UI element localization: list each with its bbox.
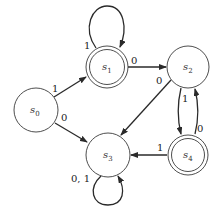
edge-s2-s3 <box>121 80 171 135</box>
state-s4: s4 <box>168 135 208 175</box>
edge-label-s1-self: 1 <box>84 40 90 51</box>
edge-label-s4-s2: 0 <box>197 123 203 134</box>
state-s3: s3 <box>86 133 130 177</box>
state-s2: s2 <box>167 46 209 88</box>
state-subscript: 4 <box>188 155 193 163</box>
edge-s3-self <box>93 176 122 205</box>
state-subscript: 1 <box>107 67 111 75</box>
edge-s0-s3 <box>55 123 87 142</box>
edge-label-s4-s3: 1 <box>157 142 163 153</box>
edge-label-s2-s4: 1 <box>182 93 188 104</box>
edge-label-s0-s1: 1 <box>52 83 58 94</box>
state-subscript: 2 <box>188 67 192 75</box>
edge-s1-self <box>89 6 124 48</box>
state-subscript: 3 <box>108 155 112 163</box>
state-s0: s0 <box>14 88 58 132</box>
transitions: 1 0 1 0 0 1 0 1 0, 1 <box>52 6 203 205</box>
state-diagram: 1 0 1 0 0 1 0 1 0, 1 s0 s1 <box>0 0 219 212</box>
edge-label-s3-self: 0, 1 <box>71 173 90 184</box>
edge-s0-s1 <box>54 77 86 97</box>
state-subscript: 0 <box>35 110 39 118</box>
state-s1: s1 <box>86 46 128 88</box>
edge-label-s0-s3: 0 <box>61 112 67 123</box>
edge-label-s1-s2: 0 <box>131 55 137 66</box>
edge-s2-s4 <box>178 88 181 134</box>
edge-label-s2-s3: 0 <box>156 75 162 86</box>
